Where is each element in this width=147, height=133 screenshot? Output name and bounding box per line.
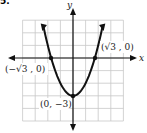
vertex-label: (0, −3) — [40, 99, 72, 109]
parabola-graph: y x (√3 , 0) (−√3 , 0) (0, −3) — [0, 0, 147, 133]
vertex-point — [71, 94, 75, 98]
x-axis-arrow-left-icon — [8, 55, 15, 61]
y-axis-label: y — [66, 0, 73, 10]
left-root-point — [49, 56, 53, 60]
left-root-label: (−√3 , 0) — [5, 64, 45, 74]
right-root-point — [93, 56, 97, 60]
right-root-label: (√3 , 0) — [101, 42, 134, 52]
problem-number: 5. — [0, 0, 10, 6]
x-axis-label: x — [139, 53, 144, 63]
y-axis-arrow-down-icon — [70, 124, 76, 131]
x-axis-arrow-right-icon — [130, 55, 137, 61]
y-axis — [70, 8, 76, 131]
